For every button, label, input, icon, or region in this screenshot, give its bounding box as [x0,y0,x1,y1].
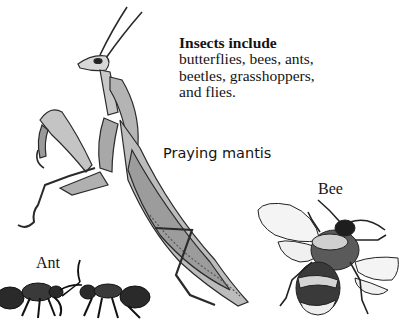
bee-illustration [258,200,398,315]
encyclopedia-page: Insects include butterflies, bees, ants,… [0,0,399,322]
ant-label: Ant [36,255,60,271]
bee-label: Bee [318,181,343,197]
intro-line-2: beetles, grasshoppers, [179,68,394,84]
ant-illustration [0,260,150,318]
mantis-label: Praying mantis [163,145,271,161]
intro-caption: Insects include butterflies, bees, ants,… [179,35,394,101]
intro-line-3: and flies. [179,84,394,100]
intro-line-1: butterflies, bees, ants, [179,51,394,67]
intro-title: Insects include [179,35,394,51]
